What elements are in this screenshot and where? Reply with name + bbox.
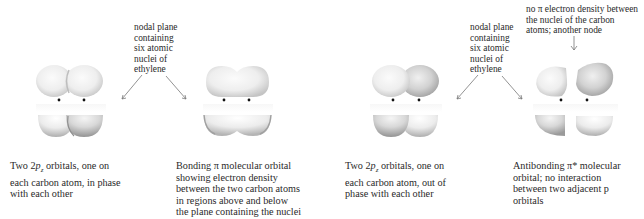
carbon-nucleus-2	[248, 99, 251, 102]
caption-line-3: phase with each other	[345, 188, 446, 200]
note-line: six atomic	[470, 43, 513, 54]
caption-line-4: orbitals	[513, 195, 621, 207]
note-line: nodal plane	[470, 22, 513, 33]
caption-line-1: Antibonding π* molecular	[513, 160, 621, 172]
bottom-lobe-right	[66, 115, 103, 137]
caption-panel-1: Two 2pz orbitals, one on each carbon ato…	[10, 160, 121, 200]
caption-line-1: Two 2pz orbitals, one on	[345, 160, 446, 177]
caption-line-2: each carbon atom, out of	[345, 177, 446, 189]
note-line: containing	[470, 33, 513, 44]
caption-line-3: between the two carbon atoms	[176, 183, 301, 195]
caption-line-3: between two adjacent p	[513, 183, 621, 195]
note-line: no π electron density between	[526, 4, 638, 15]
node-between-nuclei-label: no π electron density between the nuclei…	[526, 4, 638, 36]
carbon-nucleus-2	[586, 99, 589, 102]
bonding-bottom-lobe	[204, 115, 271, 136]
antibonding-bottom-lobe-left	[535, 115, 565, 136]
caption-line-2: each carbon atom, in phase	[10, 177, 121, 189]
panel-4-orbitals	[533, 63, 618, 136]
carbon-nucleus-1	[392, 99, 395, 102]
caption-line-4: in regions above and below	[176, 195, 301, 207]
panel-2-orbitals	[203, 66, 273, 136]
caption-panel-3: Two 2pz orbitals, one on each carbon ato…	[345, 160, 446, 200]
bottom-lobe-left-shaded	[373, 115, 409, 137]
antibonding-top-lobe-right	[576, 63, 613, 96]
nodal-plane-label-right: nodal plane containing six atomic nuclei…	[470, 22, 513, 75]
bonding-top-lobe	[206, 66, 269, 97]
caption-line-1: Bonding π molecular orbital	[176, 160, 301, 172]
caption-line-5: the plane containing the nuclei	[176, 206, 301, 218]
carbon-nucleus-2	[83, 99, 86, 102]
arrow-nodal-left-1	[122, 75, 142, 99]
arrow-nodal-right-2	[502, 76, 522, 99]
carbon-nucleus-1	[560, 99, 563, 102]
caption-panel-2: Bonding π molecular orbital showing elec…	[176, 160, 301, 218]
top-lobe-right	[65, 65, 103, 97]
carbon-nucleus-1	[58, 99, 61, 102]
note-line: ethylene	[470, 64, 513, 75]
note-line: nuclei of	[470, 54, 513, 65]
caption-line-1: Two 2pz orbitals, one on	[10, 160, 121, 177]
caption-line-3: with each other	[10, 188, 121, 200]
note-line: the nuclei of the carbon	[526, 15, 638, 26]
arrow-nodal-left-2	[166, 76, 186, 99]
antibonding-top-lobe-left	[536, 66, 567, 96]
note-line: nuclei of	[134, 54, 177, 65]
panel-1-orbitals	[36, 65, 106, 137]
top-lobe-left	[372, 65, 410, 97]
note-line: atoms; another node	[526, 25, 638, 36]
note-line: containing	[134, 33, 177, 44]
antibonding-bottom-lobe-right	[576, 116, 613, 136]
note-line: ethylene	[134, 64, 177, 75]
note-line: six atomic	[134, 43, 177, 54]
caption-line-2: orbital; no interaction	[513, 172, 621, 184]
panel-3-orbitals	[370, 65, 442, 137]
arrow-node-down	[571, 36, 577, 50]
caption-panel-4: Antibonding π* molecular orbital; no int…	[513, 160, 621, 206]
carbon-nucleus-1	[223, 99, 226, 102]
caption-line-2: showing electron density	[176, 172, 301, 184]
arrow-nodal-right-1	[457, 75, 478, 99]
note-line: nodal plane	[134, 22, 177, 33]
nodal-plane-label-left: nodal plane containing six atomic nuclei…	[134, 22, 177, 75]
carbon-nucleus-2	[418, 99, 421, 102]
